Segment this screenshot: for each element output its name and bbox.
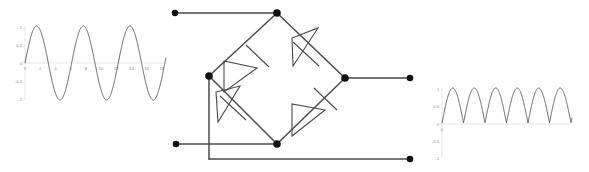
input-xtick-8: 8 — [85, 66, 88, 71]
terminal-ac-input-bottom[interactable] — [173, 141, 180, 148]
terminal-dc-output-negative[interactable] — [407, 156, 414, 163]
output-ytick-neg0p5: -0.5 — [432, 139, 440, 144]
input-xtick-2: 2 — [39, 66, 42, 71]
input-xtick-14: 14 — [129, 66, 134, 71]
input-xtick-4: 4 — [54, 66, 57, 71]
terminal-dc-output-positive[interactable] — [407, 75, 414, 82]
input-waveform-chart: 1 0.5 0 -0.5 -1 0 2 4 6 8 10 12 14 16 18 — [0, 0, 180, 172]
diode-bottom-left — [216, 86, 246, 122]
diode-top-left — [224, 45, 269, 92]
bridge-rectifier-circuit — [160, 0, 430, 172]
terminal-ac-input-top[interactable] — [172, 10, 179, 17]
input-ytick-0p5: 0.5 — [16, 43, 22, 48]
circuit-svg — [160, 0, 430, 172]
output-xtick-0: 0 — [441, 127, 444, 132]
figure-root: 1 0.5 0 -0.5 -1 0 2 4 6 8 10 12 14 16 18 — [0, 0, 589, 172]
input-ytick-neg0p5: -0.5 — [15, 79, 23, 84]
rectified-output-curve — [442, 88, 572, 123]
output-ytick-neg1: -1 — [435, 156, 439, 161]
output-ytick-1: 1 — [437, 87, 440, 92]
input-xtick-16: 16 — [144, 66, 149, 71]
node-right[interactable] — [341, 74, 349, 82]
input-xtick-0: 0 — [24, 66, 27, 71]
output-waveform-chart: 1 0.5 0 -0.5 -1 0 — [420, 72, 589, 172]
node-top[interactable] — [273, 9, 281, 17]
input-chart-svg: 1 0.5 0 -0.5 -1 0 2 4 6 8 10 12 14 16 18 — [0, 0, 180, 172]
node-bottom[interactable] — [273, 140, 281, 148]
input-ytick-1: 1 — [20, 25, 23, 30]
wire-arm-left-bottom — [209, 76, 277, 144]
wire-arm-top-right — [277, 13, 345, 78]
input-ytick-neg1: -1 — [18, 97, 22, 102]
wire-arm-left-top — [209, 13, 277, 76]
diode-bottom-right — [292, 88, 337, 136]
input-xtick-10: 10 — [99, 66, 104, 71]
node-left[interactable] — [205, 72, 213, 80]
output-ytick-0p5: 0.5 — [433, 104, 439, 109]
diode-top-right — [292, 28, 319, 66]
wire-arm-bottom-right — [277, 78, 345, 144]
output-chart-svg: 1 0.5 0 -0.5 -1 0 — [420, 72, 589, 172]
